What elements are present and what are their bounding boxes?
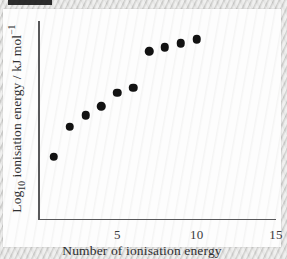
data-point <box>113 89 122 98</box>
data-point <box>97 102 106 111</box>
y-axis-ticks <box>3 9 281 18</box>
data-point <box>145 47 154 56</box>
x-axis-tick-label: 5 <box>114 227 121 243</box>
scan-artifact-bar <box>8 0 52 5</box>
data-point <box>129 84 138 93</box>
data-point <box>65 122 74 131</box>
y-axis-line <box>38 21 40 220</box>
data-point <box>177 39 186 48</box>
data-point <box>192 35 201 44</box>
figure-root: 51015 Log10 ionisation energy / kJ mol−1… <box>0 0 287 259</box>
x-axis-tick-label: 10 <box>190 227 203 243</box>
data-point <box>50 152 59 161</box>
data-point <box>81 111 90 120</box>
x-axis-tick-label: 15 <box>269 227 282 243</box>
x-axis-tick <box>3 95 5 101</box>
y-axis-title: Log10 ionisation energy / kJ mol−1 <box>7 19 26 219</box>
x-axis-line <box>38 219 276 221</box>
plot-area: 51015 <box>3 9 281 247</box>
x-axis-title: Number of ionisation energy <box>3 243 281 259</box>
chart-card: 51015 Log10 ionisation energy / kJ mol−1… <box>3 9 281 247</box>
x-axis-ticks <box>3 18 281 101</box>
data-point <box>161 43 170 52</box>
